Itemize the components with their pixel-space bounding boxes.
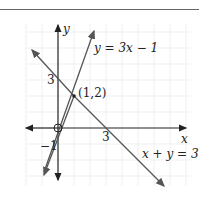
x-tick-3: 3	[102, 130, 110, 144]
y-tick-3: 3	[47, 73, 55, 87]
graph: y x y = 3x − 1 x + y = 3 (1,2) 3 −1 3	[0, 0, 199, 206]
y-axis-label: y	[62, 22, 70, 36]
intersection-label: (1,2)	[78, 86, 106, 100]
x-axis-label: x	[181, 132, 188, 146]
intersection-point	[72, 94, 76, 98]
line1-equation: y = 3x − 1	[93, 41, 158, 55]
line2-equation: x + y = 3	[142, 147, 199, 161]
y-tick-neg1: −1	[40, 139, 58, 153]
